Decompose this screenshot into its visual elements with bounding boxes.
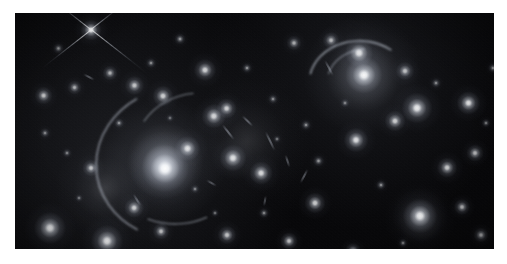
screenshot-viewport [0,0,507,264]
star-diffraction-spikes-arm-3 [56,13,91,30]
star-diffraction-spikes-arm-1 [91,29,147,73]
diffraction-spikes-layer [15,13,494,249]
astronomy-image-plate [15,13,494,249]
star-diffraction-spikes-arm-4 [91,13,123,30]
star-diffraction-spikes-arm-2 [42,29,92,68]
